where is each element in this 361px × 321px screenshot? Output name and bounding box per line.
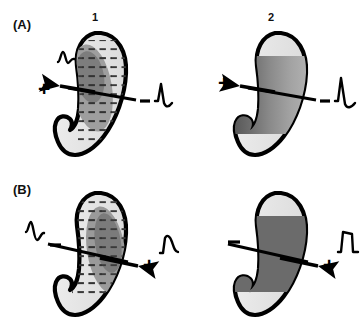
diagram-b1 [0,160,180,321]
ecg-trace-b1-left [26,222,44,240]
panel-b-column-1: + [0,160,180,320]
electrode-sign-plus-a1: + [38,78,50,99]
panel-b-column-2: + [180,160,360,320]
ecg-trace-b2-right [338,232,358,252]
electrode-sign-plus-a2: + [218,72,230,93]
figure-root: (A) (B) 1 2 [0,0,361,321]
electrode-sign-plus-b1: + [143,254,155,275]
panel-a-column-2: + [180,0,360,160]
ecg-trace-a2-right [335,78,355,107]
diagram-a2 [180,0,360,161]
ecg-trace-a1-right [155,84,172,106]
diagram-a1 [0,0,180,161]
ecg-trace-b1-right [160,236,178,253]
ecg-trace-a1-left [58,52,74,63]
panel-a-column-1: + [0,0,180,160]
diagram-b2 [180,160,360,321]
electrode-sign-plus-b2: + [323,254,335,275]
